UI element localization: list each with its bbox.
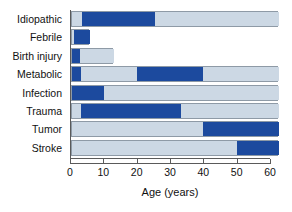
category-label-febrile: Febrile: [0, 32, 62, 43]
x-tick-label-10: 10: [97, 166, 109, 178]
age-distribution-bar-chart: IdiopathicFebrileBirth injuryMetabolicIn…: [0, 0, 292, 212]
x-axis: 0102030405060: [70, 163, 270, 164]
bar-segment-dark: [74, 30, 91, 44]
category-label-stroke: Stroke: [0, 143, 62, 154]
category-axis-labels: IdiopathicFebrileBirth injuryMetabolicIn…: [0, 10, 66, 158]
bar-segment-light: [155, 12, 278, 26]
bar-segment-light: [72, 141, 237, 155]
x-tick-10: [103, 159, 104, 164]
bar-segment-light: [72, 12, 82, 26]
bar-febrile: [71, 29, 89, 45]
x-tick-label-20: 20: [131, 166, 143, 178]
bar-trauma: [71, 103, 278, 119]
bar-segment-dark: [137, 67, 203, 81]
bar-segment-light: [181, 104, 278, 118]
bar-stroke: [71, 140, 278, 156]
x-tick-60: [270, 159, 271, 164]
bar-segment-dark: [81, 104, 182, 118]
bar-segment-light: [104, 86, 279, 100]
bar-segment-light: [203, 67, 279, 81]
x-tick-label-30: 30: [164, 166, 176, 178]
bar-segment-dark: [72, 49, 80, 63]
bar-segment-dark: [72, 86, 104, 100]
x-tick-0: [70, 159, 71, 164]
bar-segment-dark: [237, 141, 279, 155]
bar-birth-injury: [71, 48, 113, 64]
category-label-metabolic: Metabolic: [0, 69, 62, 80]
bar-segment-dark: [203, 122, 279, 136]
x-axis-title: Age (years): [70, 186, 270, 198]
bar-segment-dark: [82, 12, 155, 26]
x-tick-label-50: 50: [231, 166, 243, 178]
x-tick-20: [137, 159, 138, 164]
x-tick-label-60: 60: [264, 166, 276, 178]
plot-area: [70, 10, 271, 158]
x-tick-label-40: 40: [197, 166, 209, 178]
category-label-trauma: Trauma: [0, 106, 62, 117]
bar-segment-light: [80, 49, 114, 63]
x-tick-label-0: 0: [67, 166, 73, 178]
bar-idiopathic: [71, 11, 278, 27]
bar-segment-light: [81, 67, 137, 81]
bar-metabolic: [71, 66, 278, 82]
bar-segment-light: [72, 104, 81, 118]
category-label-idiopathic: Idiopathic: [0, 14, 62, 25]
x-tick-30: [170, 159, 171, 164]
bar-segment-light: [72, 122, 203, 136]
x-tick-50: [237, 159, 238, 164]
category-label-infection: Infection: [0, 88, 62, 99]
bar-segment-dark: [72, 67, 81, 81]
bar-infection: [71, 85, 278, 101]
category-label-birth-injury: Birth injury: [0, 51, 62, 62]
category-label-tumor: Tumor: [0, 124, 62, 135]
x-tick-40: [203, 159, 204, 164]
bar-tumor: [71, 121, 278, 137]
